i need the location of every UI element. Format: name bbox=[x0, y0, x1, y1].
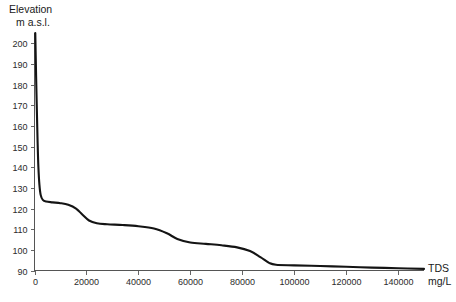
y-tick-label: 90 bbox=[17, 267, 27, 277]
x-axis-title-line1: TDS bbox=[428, 262, 449, 274]
y-axis-title: Elevation m a.s.l. bbox=[9, 3, 52, 28]
x-tick-label: 120000 bbox=[331, 277, 361, 287]
y-tick-label: 160 bbox=[12, 122, 27, 132]
x-tick-label: 40000 bbox=[126, 277, 151, 287]
x-tick-label: 20000 bbox=[74, 277, 99, 287]
y-tick-label: 120 bbox=[12, 205, 27, 215]
x-axis-tick-group: 020000400006000080000100000120000140000 bbox=[33, 271, 414, 287]
y-tick-label: 170 bbox=[12, 101, 27, 111]
y-tick-label: 200 bbox=[12, 39, 27, 49]
y-tick-label: 140 bbox=[12, 163, 27, 173]
y-tick-label: 150 bbox=[12, 143, 27, 153]
x-tick-label: 100000 bbox=[279, 277, 309, 287]
x-axis-title-line2: mg/L bbox=[428, 275, 452, 287]
y-axis-tick-group: 90100110120130140150160170180190200 bbox=[12, 39, 34, 277]
elevation-tds-curve bbox=[35, 33, 424, 269]
y-tick-label: 180 bbox=[12, 81, 27, 91]
y-tick-label: 110 bbox=[13, 225, 27, 235]
chart-container: Elevation m a.s.l. TDS mg/L 901001101201… bbox=[0, 0, 456, 302]
y-axis-title-line1: Elevation bbox=[9, 3, 52, 15]
x-tick-label: 0 bbox=[33, 277, 38, 287]
x-tick-label: 60000 bbox=[178, 277, 203, 287]
y-tick-label: 190 bbox=[12, 60, 27, 70]
elevation-tds-chart: Elevation m a.s.l. TDS mg/L 901001101201… bbox=[0, 0, 456, 302]
x-axis-title: TDS mg/L bbox=[428, 262, 452, 287]
y-tick-label: 130 bbox=[12, 184, 27, 194]
x-tick-label: 80000 bbox=[230, 277, 255, 287]
y-tick-label: 100 bbox=[12, 246, 27, 256]
y-axis-title-line2: m a.s.l. bbox=[16, 16, 50, 28]
x-tick-label: 140000 bbox=[383, 277, 413, 287]
